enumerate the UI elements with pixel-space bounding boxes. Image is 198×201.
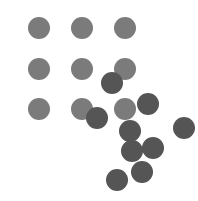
scatter-dot-3: [137, 93, 159, 115]
scatter-dot-8: [131, 161, 153, 183]
scatter-dot-4: [119, 120, 141, 142]
grid-dot-5: [71, 58, 93, 80]
scatter-dot-1: [101, 72, 123, 94]
scatter-dot-7: [173, 117, 195, 139]
dot-diagram: [0, 0, 198, 201]
scatter-dot-2: [86, 107, 108, 129]
scatter-dot-9: [106, 169, 128, 191]
grid-dot-2: [71, 17, 93, 39]
grid-dots-group: [28, 17, 136, 120]
grid-dot-3: [114, 17, 136, 39]
scatter-dot-6: [142, 137, 164, 159]
dots-figure: [0, 0, 198, 201]
grid-dot-4: [28, 58, 50, 80]
scatter-dots-group: [86, 72, 195, 191]
grid-dot-7: [28, 98, 50, 120]
scatter-dot-5: [121, 140, 143, 162]
grid-dot-1: [28, 17, 50, 39]
grid-dot-9: [114, 98, 136, 120]
